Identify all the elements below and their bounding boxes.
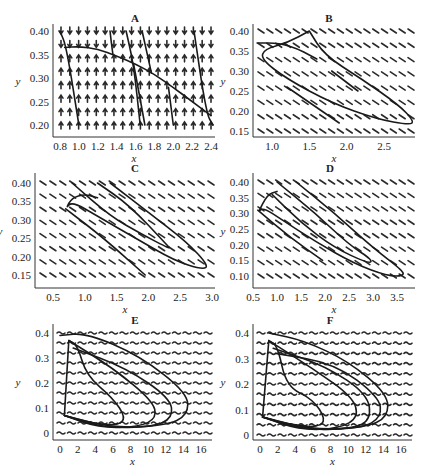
field-dash-icon	[399, 129, 405, 133]
field-dash-icon	[258, 180, 264, 184]
field-dash-icon	[60, 181, 66, 185]
field-dash-icon	[302, 58, 308, 62]
field-wave-icon	[131, 432, 139, 434]
x-tick-label: 6	[310, 443, 316, 455]
field-dash-icon	[50, 273, 56, 277]
field-dash-icon	[70, 234, 76, 238]
field-wave-icon	[120, 342, 128, 344]
field-dash-icon	[373, 43, 379, 47]
x-tick-label: 16	[396, 443, 408, 455]
field-dash-icon	[188, 220, 194, 224]
field-dash-icon	[320, 72, 326, 76]
field-dash-icon	[60, 194, 66, 198]
field-wave-icon	[268, 403, 276, 405]
field-wave-icon	[204, 372, 212, 374]
field-dash-icon	[320, 129, 326, 133]
y-tick-label: 0.30	[12, 214, 32, 226]
x-tick-label: 1.2	[91, 140, 105, 152]
field-dash-icon	[408, 207, 414, 211]
y-tick-label: 0.40	[30, 25, 50, 37]
field-wave-icon	[320, 342, 328, 344]
field-dash-icon	[276, 193, 282, 197]
field-arrow-icon	[165, 27, 169, 34]
x-tick-label: 2.5	[342, 291, 356, 303]
field-dash-icon	[293, 100, 299, 104]
field-dash-icon	[302, 274, 308, 278]
y-tick-label: 0	[244, 429, 250, 441]
field-dash-icon	[399, 72, 405, 76]
field-wave-icon	[383, 434, 391, 436]
field-dash-icon	[208, 194, 214, 198]
field-dash-icon	[284, 180, 290, 184]
field-dash-icon	[89, 273, 95, 277]
field-wave-icon	[141, 372, 149, 374]
field-dash-icon	[50, 194, 56, 198]
field-wave-icon	[131, 342, 139, 344]
panel-title: A	[131, 12, 139, 24]
field-dash-icon	[382, 261, 388, 265]
field-wave-icon	[110, 392, 118, 394]
field-wave-icon	[383, 424, 391, 426]
field-dash-icon	[382, 115, 388, 119]
x-tick-label: 8	[328, 443, 334, 455]
field-dash-icon	[267, 115, 273, 119]
field-dash-icon	[302, 72, 308, 76]
field-dash-icon	[320, 180, 326, 184]
field-dash-icon	[258, 72, 264, 76]
field-dash-icon	[258, 234, 264, 238]
field-dash-icon	[337, 180, 343, 184]
y-tick-label: 0.15	[230, 125, 250, 137]
field-dash-icon	[208, 234, 214, 238]
field-dash-icon	[390, 43, 396, 47]
field-arrow-icon	[156, 68, 160, 75]
field-dash-icon	[364, 129, 370, 133]
field-dash-icon	[337, 100, 343, 104]
field-dash-icon	[399, 29, 405, 33]
field-dash-icon	[311, 115, 317, 119]
field-wave-icon	[120, 392, 128, 394]
field-dash-icon	[390, 115, 396, 119]
field-wave-icon	[173, 362, 181, 364]
field-wave-icon	[173, 352, 181, 354]
field-wave-icon	[331, 424, 339, 426]
field-wave-icon	[320, 393, 328, 395]
field-wave-icon	[268, 373, 276, 375]
field-wave-icon	[89, 412, 97, 414]
field-arrow-icon	[103, 122, 107, 129]
field-wave-icon	[68, 412, 76, 414]
panel-title: D	[326, 162, 334, 174]
field-dash-icon	[267, 247, 273, 251]
field-arrow-icon	[209, 68, 213, 75]
field-dash-icon	[364, 207, 370, 211]
field-dash-icon	[267, 180, 273, 184]
field-dash-icon	[70, 247, 76, 251]
field-wave-icon	[404, 424, 412, 426]
x-tick-label: 2.5	[173, 291, 187, 303]
field-dash-icon	[399, 180, 405, 184]
field-wave-icon	[383, 373, 391, 375]
field-arrow-icon	[209, 27, 213, 34]
field-dash-icon	[364, 193, 370, 197]
field-arrow-icon	[165, 122, 169, 129]
field-wave-icon	[78, 372, 86, 374]
field-dash-icon	[382, 43, 388, 47]
field-dash-icon	[337, 207, 343, 211]
field-arrow-icon	[121, 68, 125, 75]
field-wave-icon	[162, 352, 170, 354]
field-arrow-icon	[165, 55, 169, 62]
field-wave-icon	[404, 332, 412, 334]
y-axis-label: y	[220, 75, 226, 87]
field-dash-icon	[337, 43, 343, 47]
field-wave-icon	[204, 382, 212, 384]
field-arrow-icon	[103, 82, 107, 89]
field-dash-icon	[373, 29, 379, 33]
field-dash-icon	[337, 58, 343, 62]
field-wave-icon	[310, 352, 318, 354]
field-dash-icon	[399, 100, 405, 104]
field-wave-icon	[162, 362, 170, 364]
field-wave-icon	[278, 434, 286, 436]
field-dash-icon	[293, 220, 299, 224]
field-dash-icon	[320, 43, 326, 47]
field-dash-icon	[320, 86, 326, 90]
field-wave-icon	[204, 342, 212, 344]
